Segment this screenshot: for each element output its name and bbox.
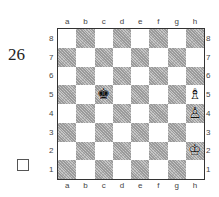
square-e8[interactable]	[131, 29, 149, 48]
file-label: d	[113, 17, 131, 26]
file-labels-bottom: a b c d e f g h	[58, 181, 204, 190]
rank-label: 3	[49, 123, 53, 142]
square-e6[interactable]	[131, 67, 149, 86]
file-label: b	[76, 17, 94, 26]
rank-label: 7	[49, 48, 53, 67]
square-h3[interactable]	[186, 123, 204, 142]
square-c1[interactable]	[95, 160, 113, 179]
square-e7[interactable]	[131, 48, 149, 67]
file-label: c	[95, 181, 113, 190]
square-b4[interactable]	[76, 104, 94, 123]
square-b6[interactable]	[76, 67, 94, 86]
file-label: a	[58, 17, 76, 26]
rank-label: 3	[206, 123, 210, 142]
square-a7[interactable]	[58, 48, 76, 67]
solved-checkbox[interactable]	[17, 159, 29, 171]
square-e1[interactable]	[131, 160, 149, 179]
square-d1[interactable]	[113, 160, 131, 179]
square-b2[interactable]	[76, 142, 94, 161]
square-h6[interactable]	[186, 67, 204, 86]
square-c3[interactable]	[95, 123, 113, 142]
rank-label: 2	[49, 142, 53, 161]
square-a3[interactable]	[58, 123, 76, 142]
rank-label: 4	[49, 104, 53, 123]
square-d7[interactable]	[113, 48, 131, 67]
square-h5[interactable]: ♗	[186, 85, 204, 104]
file-label: h	[186, 181, 204, 190]
square-c6[interactable]	[95, 67, 113, 86]
square-d4[interactable]	[113, 104, 131, 123]
square-f7[interactable]	[149, 48, 167, 67]
square-g1[interactable]	[168, 160, 186, 179]
square-f5[interactable]	[149, 85, 167, 104]
rank-label: 8	[206, 29, 210, 48]
file-label: g	[168, 181, 186, 190]
square-g3[interactable]	[168, 123, 186, 142]
square-g6[interactable]	[168, 67, 186, 86]
square-a6[interactable]	[58, 67, 76, 86]
square-h2[interactable]: ♔	[186, 142, 204, 161]
square-d6[interactable]	[113, 67, 131, 86]
white-bishop-icon[interactable]: ♗	[188, 87, 201, 102]
square-b8[interactable]	[76, 29, 94, 48]
rank-label: 5	[206, 85, 210, 104]
rank-label: 7	[206, 48, 210, 67]
square-c8[interactable]	[95, 29, 113, 48]
square-f1[interactable]	[149, 160, 167, 179]
file-label: f	[149, 17, 167, 26]
square-g2[interactable]	[168, 142, 186, 161]
rank-label: 6	[49, 67, 53, 86]
square-g5[interactable]	[168, 85, 186, 104]
file-label: e	[131, 181, 149, 190]
square-d5[interactable]	[113, 85, 131, 104]
square-e3[interactable]	[131, 123, 149, 142]
square-e2[interactable]	[131, 142, 149, 161]
file-labels-top: a b c d e f g h	[58, 17, 204, 26]
square-h4[interactable]: ♙	[186, 104, 204, 123]
square-c5[interactable]: ♚	[95, 85, 113, 104]
square-g8[interactable]	[168, 29, 186, 48]
square-a1[interactable]	[58, 160, 76, 179]
file-label: f	[149, 181, 167, 190]
square-f6[interactable]	[149, 67, 167, 86]
square-c2[interactable]	[95, 142, 113, 161]
rank-label: 4	[206, 104, 210, 123]
square-h7[interactable]	[186, 48, 204, 67]
square-b1[interactable]	[76, 160, 94, 179]
rank-label: 8	[49, 29, 53, 48]
white-pawn-icon[interactable]: ♙	[188, 106, 201, 121]
square-a8[interactable]	[58, 29, 76, 48]
square-e4[interactable]	[131, 104, 149, 123]
file-label: c	[95, 17, 113, 26]
square-a2[interactable]	[58, 142, 76, 161]
square-d2[interactable]	[113, 142, 131, 161]
square-f4[interactable]	[149, 104, 167, 123]
white-king-icon[interactable]: ♔	[188, 143, 201, 158]
square-a4[interactable]	[58, 104, 76, 123]
square-h8[interactable]	[186, 29, 204, 48]
file-label: b	[76, 181, 94, 190]
square-h1[interactable]	[186, 160, 204, 179]
black-king-icon[interactable]: ♚	[97, 87, 110, 102]
square-g4[interactable]	[168, 104, 186, 123]
square-c4[interactable]	[95, 104, 113, 123]
square-g7[interactable]	[168, 48, 186, 67]
square-d8[interactable]	[113, 29, 131, 48]
rank-labels-right: 8 7 6 5 4 3 2 1	[206, 29, 210, 179]
square-f3[interactable]	[149, 123, 167, 142]
file-label: d	[113, 181, 131, 190]
square-f8[interactable]	[149, 29, 167, 48]
square-b3[interactable]	[76, 123, 94, 142]
rank-label: 1	[206, 160, 210, 179]
square-f2[interactable]	[149, 142, 167, 161]
square-b7[interactable]	[76, 48, 94, 67]
square-e5[interactable]	[131, 85, 149, 104]
file-label: g	[168, 17, 186, 26]
square-d3[interactable]	[113, 123, 131, 142]
square-b5[interactable]	[76, 85, 94, 104]
rank-label: 6	[206, 67, 210, 86]
square-c7[interactable]	[95, 48, 113, 67]
square-a5[interactable]	[58, 85, 76, 104]
rank-labels-left: 8 7 6 5 4 3 2 1	[49, 29, 53, 179]
file-label: a	[58, 181, 76, 190]
